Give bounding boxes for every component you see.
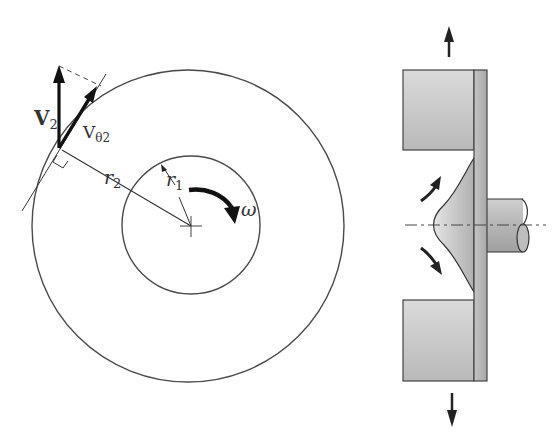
diagram-canvas: V2 Vθ2 r2 r1 ω (0, 0, 560, 444)
label-v2: V2 (33, 106, 58, 132)
omega-rotation-arrow-icon (189, 190, 240, 224)
top-block (403, 70, 474, 150)
up-arrow-icon (444, 26, 454, 57)
right-panel-pump (403, 26, 546, 427)
down-arrow-icon (447, 393, 457, 427)
flow-arrow-down-icon (421, 248, 442, 275)
label-omega: ω (241, 198, 257, 220)
r1-radius-line (179, 197, 191, 226)
velocity-dashed-line (59, 66, 101, 86)
left-panel-disk: V2 Vθ2 r2 r1 ω (22, 65, 344, 382)
v2-arrow-icon (53, 65, 65, 148)
bottom-block (403, 300, 474, 381)
label-r2: r2 (104, 166, 121, 191)
label-vtheta2: Vθ2 (82, 122, 110, 145)
label-r1: r1 (166, 168, 183, 193)
flow-arrow-up-icon (421, 176, 441, 201)
center-cross-icon (180, 216, 202, 237)
